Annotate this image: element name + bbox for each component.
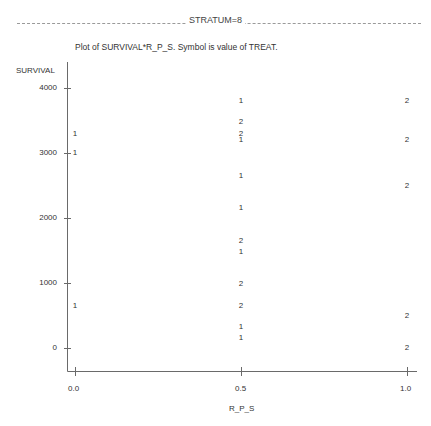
data-point-treat-1: 1 [70, 148, 80, 157]
x-tick-label: 0.0 [68, 384, 79, 393]
data-point-treat-1: 1 [236, 171, 246, 180]
data-point-treat-1: 1 [236, 247, 246, 256]
data-point-treat-1: 1 [236, 333, 246, 342]
data-point-treat-2: 2 [402, 311, 412, 320]
y-tick-label: 1000 [17, 278, 57, 287]
data-point-treat-2: 2 [402, 181, 412, 190]
data-point-treat-2: 2 [236, 129, 246, 138]
data-point-treat-2: 2 [236, 279, 246, 288]
data-point-treat-2: 2 [402, 343, 412, 352]
data-point-treat-1: 1 [70, 301, 80, 310]
data-point-treat-2: 2 [402, 135, 412, 144]
plot-axes [0, 0, 431, 426]
data-point-treat-1: 1 [236, 96, 246, 105]
y-tick-label: 2000 [17, 213, 57, 222]
data-point-treat-2: 2 [402, 96, 412, 105]
data-point-treat-1: 1 [236, 203, 246, 212]
y-tick-label: 0 [17, 343, 57, 352]
y-tick-label: 3000 [17, 148, 57, 157]
data-point-treat-1: 1 [236, 322, 246, 331]
x-axis-label: R_P_S [229, 404, 254, 413]
x-tick-label: 1.0 [400, 384, 411, 393]
data-point-treat-2: 2 [236, 301, 246, 310]
data-point-treat-2: 2 [236, 117, 246, 126]
y-tick-label: 4000 [17, 83, 57, 92]
x-tick-label: 0.5 [235, 384, 246, 393]
data-point-treat-2: 2 [236, 236, 246, 245]
data-point-treat-1: 1 [70, 129, 80, 138]
